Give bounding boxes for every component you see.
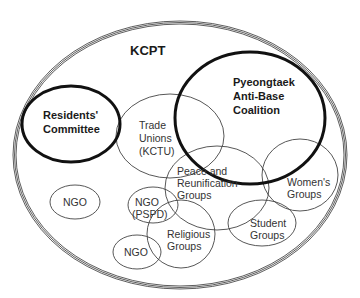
svg-text:Student: Student bbox=[250, 217, 286, 229]
svg-text:Religious: Religious bbox=[167, 228, 210, 240]
svg-text:NGO: NGO bbox=[135, 196, 159, 208]
svg-text:Coalition: Coalition bbox=[233, 104, 280, 116]
svg-text:Groups: Groups bbox=[287, 188, 321, 200]
kcpt-title: KCPT bbox=[130, 43, 165, 58]
svg-text:Groups: Groups bbox=[167, 240, 201, 252]
svg-text:Pyeongtaek: Pyeongtaek bbox=[233, 76, 296, 88]
svg-text:Women's: Women's bbox=[287, 176, 330, 188]
svg-text:Residents': Residents' bbox=[43, 109, 99, 121]
svg-text:Groups: Groups bbox=[177, 189, 211, 201]
ngo-pspd-label: NGO (PSPD) bbox=[132, 196, 168, 220]
residents-label: Residents' Committee bbox=[43, 109, 100, 135]
trade-unions-label: Trade Unions (KCTU) bbox=[139, 119, 175, 157]
svg-text:Trade: Trade bbox=[139, 119, 166, 131]
svg-text:Reunification: Reunification bbox=[177, 177, 238, 189]
kcpt-diagram: KCPT Residents' Committee Pyeongtaek Ant… bbox=[0, 0, 360, 298]
svg-text:Anti-Base: Anti-Base bbox=[233, 90, 284, 102]
svg-text:NGO: NGO bbox=[63, 196, 87, 208]
student-label: Student Groups bbox=[250, 217, 286, 241]
ngo-left-label: NGO bbox=[63, 196, 87, 208]
svg-text:Peace and: Peace and bbox=[177, 165, 227, 177]
svg-text:(PSPD): (PSPD) bbox=[132, 208, 168, 220]
pyeongtaek-label: Pyeongtaek Anti-Base Coalition bbox=[233, 76, 296, 116]
religious-label: Religious Groups bbox=[167, 228, 210, 252]
womens-ellipse bbox=[262, 139, 338, 211]
womens-label: Women's Groups bbox=[287, 176, 330, 200]
peace-label: Peace and Reunification Groups bbox=[177, 165, 238, 201]
svg-text:(KCTU): (KCTU) bbox=[139, 145, 175, 157]
svg-text:Groups: Groups bbox=[250, 229, 284, 241]
svg-text:Unions: Unions bbox=[139, 132, 172, 144]
svg-text:Committee: Committee bbox=[43, 123, 100, 135]
svg-text:NGO: NGO bbox=[124, 246, 148, 258]
ngo-bottom-label: NGO bbox=[124, 246, 148, 258]
